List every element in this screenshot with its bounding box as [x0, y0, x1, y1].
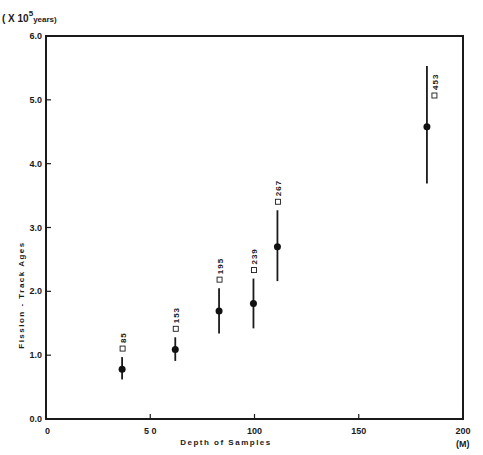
x-axis: 05 0100150200 [45, 414, 471, 436]
x-tick-label: 150 [351, 426, 366, 436]
sample-square-icon [275, 199, 280, 204]
y-tick-label: 4.0 [29, 159, 42, 169]
y-tick-label: 5.0 [29, 95, 42, 105]
sample-square-icon [251, 268, 256, 273]
chart: 0.01.02.03.04.05.06.0 05 0100150200 8515… [0, 0, 483, 455]
point-marker [172, 346, 179, 353]
point-marker [423, 123, 430, 130]
sample-label: 453 [431, 74, 440, 90]
point-marker [274, 243, 281, 250]
plot-frame [46, 36, 463, 419]
y-tick-label: 0.0 [29, 414, 42, 424]
x-tick-label: 0 [45, 426, 50, 436]
sample-label: 267 [274, 180, 283, 196]
x-tick-label: 5 0 [144, 426, 157, 436]
point-marker [119, 366, 126, 373]
y-axis: 0.01.02.03.04.05.06.0 [29, 31, 51, 424]
data-point: 239 [250, 248, 259, 328]
data-point: 153 [172, 307, 182, 361]
sample-square-icon [120, 346, 125, 351]
y-tick-label: 3.0 [29, 223, 42, 233]
data-point: 195 [216, 258, 226, 334]
y-tick-label: 2.0 [29, 286, 42, 296]
sample-square-icon [432, 93, 437, 98]
x-tick-label: 100 [247, 426, 262, 436]
data-series: 85153195239267453 [119, 66, 440, 379]
x-unit-label: (M) [456, 439, 470, 449]
sample-square-icon [217, 277, 222, 282]
y-unit-label: ( X 105years) [2, 9, 57, 24]
y-tick-label: 6.0 [29, 31, 42, 41]
sample-label: 239 [250, 248, 259, 264]
point-marker [216, 308, 223, 315]
x-tick-label: 200 [455, 426, 470, 436]
y-tick-label: 1.0 [29, 350, 42, 360]
sample-square-icon [173, 326, 178, 331]
data-point: 453 [423, 66, 440, 183]
sample-label: 153 [172, 307, 181, 323]
data-point: 267 [274, 180, 284, 281]
sample-label: 85 [119, 332, 128, 343]
x-axis-title: Depth of Samples [180, 438, 272, 447]
y-axis-title: Fission - Track Ages [17, 241, 26, 349]
point-marker [250, 300, 257, 307]
data-point: 85 [119, 332, 129, 379]
sample-label: 195 [216, 258, 225, 274]
